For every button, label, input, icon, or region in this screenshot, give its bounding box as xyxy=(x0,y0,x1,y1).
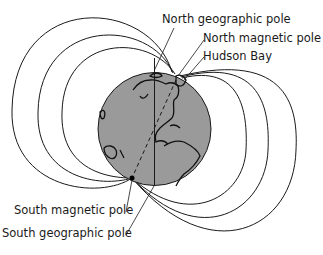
label-south-magnetic-pole: South magnetic pole xyxy=(14,205,133,217)
label-north-geographic-pole: North geographic pole xyxy=(162,14,291,26)
label-hudson-bay: Hudson Bay xyxy=(203,51,272,63)
leader-north-magnetic xyxy=(178,40,204,76)
leader-north-geographic xyxy=(155,28,175,70)
south-magnetic-pole-marker xyxy=(130,176,135,181)
label-south-geographic-pole: South geographic pole xyxy=(2,228,132,240)
label-north-magnetic-pole: North magnetic pole xyxy=(203,33,321,45)
leader-hudson-bay xyxy=(184,57,204,80)
